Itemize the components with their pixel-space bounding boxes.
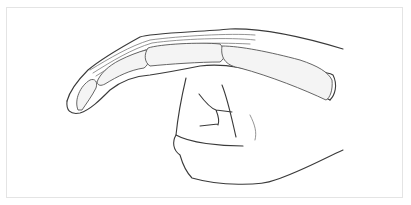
hand-illustration	[0, 0, 411, 205]
proximal-phalanx	[145, 43, 224, 66]
folded-fingers-outline	[176, 78, 243, 146]
metacarpal	[222, 46, 333, 100]
knuckle-detail	[250, 115, 256, 140]
